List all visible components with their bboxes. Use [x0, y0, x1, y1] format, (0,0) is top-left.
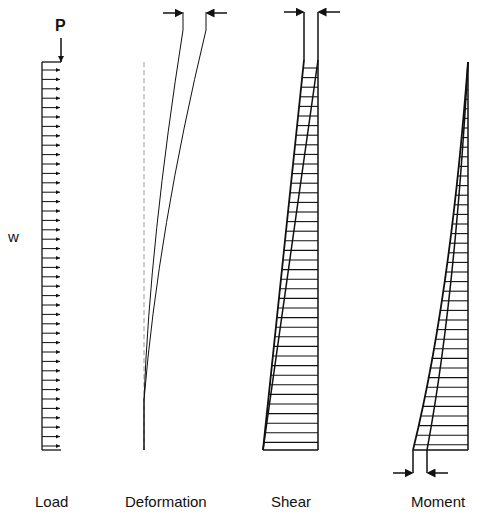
distributed-load-label: w — [8, 228, 19, 245]
shear-label: Shear — [271, 493, 311, 510]
deflected-curve-2 — [144, 12, 206, 450]
deformation-label: Deformation — [125, 493, 207, 510]
load-label: Load — [35, 493, 68, 510]
point-load-label: P — [55, 17, 66, 35]
deflected-curve-1 — [144, 12, 183, 450]
moment-panel — [393, 62, 468, 473]
deformation-panel — [144, 12, 227, 450]
structural-diagram — [0, 0, 488, 527]
load-panel — [42, 38, 61, 450]
distributed-load-arrows — [42, 70, 60, 446]
shear-panel — [263, 12, 340, 450]
moment-label: Moment — [411, 493, 465, 510]
